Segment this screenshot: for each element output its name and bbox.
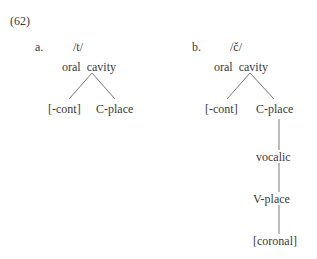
b-cont-node: [-cont] <box>205 103 238 115</box>
a-cplace-node: C-place <box>96 103 133 115</box>
b-coronal-node: [coronal] <box>253 235 297 247</box>
b-cplace-node: C-place <box>256 103 293 115</box>
b-vplace-node: V-place <box>253 193 290 205</box>
a-branch-right <box>92 73 115 99</box>
b-vocalic-node: vocalic <box>256 151 291 163</box>
a-root-node: oral cavity <box>62 61 116 73</box>
example-number: (62) <box>10 15 30 27</box>
a-branch-left <box>69 73 92 99</box>
b-branch-right <box>250 73 274 99</box>
b-segment: /č/ <box>230 41 242 53</box>
b-branch-left <box>227 73 250 99</box>
tree-lines <box>0 0 317 259</box>
b-label: b. <box>192 41 201 53</box>
a-segment: /t/ <box>73 41 83 53</box>
a-label: a. <box>35 41 43 53</box>
b-root-node: oral cavity <box>214 61 268 73</box>
a-cont-node: [-cont] <box>48 103 81 115</box>
